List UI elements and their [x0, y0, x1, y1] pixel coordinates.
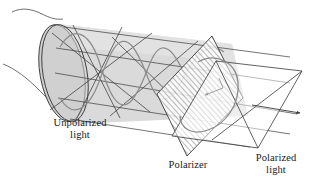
incoming-squiggle-top-icon: [12, 9, 63, 19]
label-unpolarized-line2: light: [34, 129, 126, 141]
light-polarization-figure: Unpolarized light Polarizer Polarized li…: [0, 0, 311, 186]
label-polarized-light: Polarized light: [243, 152, 309, 175]
label-unpolarized-line1: Unpolarized: [34, 117, 126, 129]
label-polarized-line1: Polarized: [243, 152, 309, 164]
label-unpolarized-light: Unpolarized light: [34, 117, 126, 140]
label-polarized-line2: light: [243, 164, 309, 176]
label-polarizer: Polarizer: [145, 159, 231, 171]
label-polarizer-line1: Polarizer: [145, 159, 231, 171]
